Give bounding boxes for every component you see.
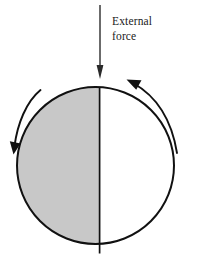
external-force-label: External force — [112, 14, 152, 43]
external-force-arrow — [97, 5, 104, 79]
figure-container: External force — [0, 0, 199, 268]
external-force-label-line2: force — [112, 29, 152, 44]
disk-force-diagram — [0, 0, 199, 268]
external-force-label-line1: External — [112, 14, 152, 29]
external-force-arrowhead — [97, 65, 104, 79]
rotation-arrow-right-head — [127, 80, 142, 90]
